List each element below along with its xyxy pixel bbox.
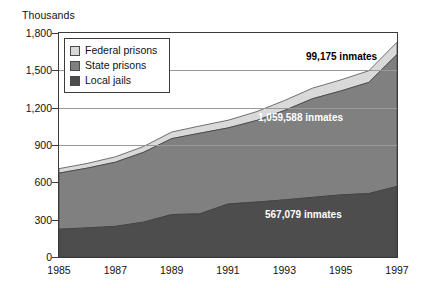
legend-label: Federal prisons [85, 45, 157, 56]
y-tick-label-1800: 1,800 [26, 27, 52, 39]
legend-item-state-prisons[interactable]: State prisons [70, 58, 163, 73]
y-tick-label-1500: 1,500 [26, 64, 52, 76]
x-tick-label-1995: 1995 [329, 264, 352, 276]
y-tick-label-600: 600 [34, 176, 52, 188]
y-tick-label-1200: 1,200 [26, 102, 52, 114]
legend-label: Local jails [85, 75, 131, 86]
y-tick-label-900: 900 [34, 139, 52, 151]
gridline-900 [59, 145, 398, 146]
legend-swatch-icon [70, 61, 80, 71]
legend-swatch-icon [70, 76, 80, 86]
y-tick-label-300: 300 [34, 214, 52, 226]
legend-item-federal-prisons[interactable]: Federal prisons [70, 43, 163, 58]
x-tick-label-1997: 1997 [385, 264, 408, 276]
y-axis-title: Thousands [22, 9, 75, 21]
x-tick-label-1987: 1987 [104, 264, 127, 276]
federal-value-annotation: 99,175 inmates [306, 51, 377, 62]
legend-label: State prisons [85, 60, 146, 71]
chart-legend: Federal prisonsState prisonsLocal jails [64, 38, 170, 93]
x-tick-label-1991: 1991 [216, 264, 239, 276]
x-tick-label-1989: 1989 [160, 264, 183, 276]
stacked-area-chart-figure: Thousands 03006009001,2001,5001,800 99,1… [0, 0, 436, 288]
x-tick-label-1993: 1993 [273, 264, 296, 276]
gridline-1200 [59, 108, 398, 109]
legend-swatch-icon [70, 46, 80, 56]
local-value-annotation: 567,079 inmates [265, 209, 342, 220]
legend-item-local-jails[interactable]: Local jails [70, 73, 163, 88]
state-value-annotation: 1,059,588 inmates [258, 112, 343, 123]
x-tick-label-1985: 1985 [47, 264, 70, 276]
